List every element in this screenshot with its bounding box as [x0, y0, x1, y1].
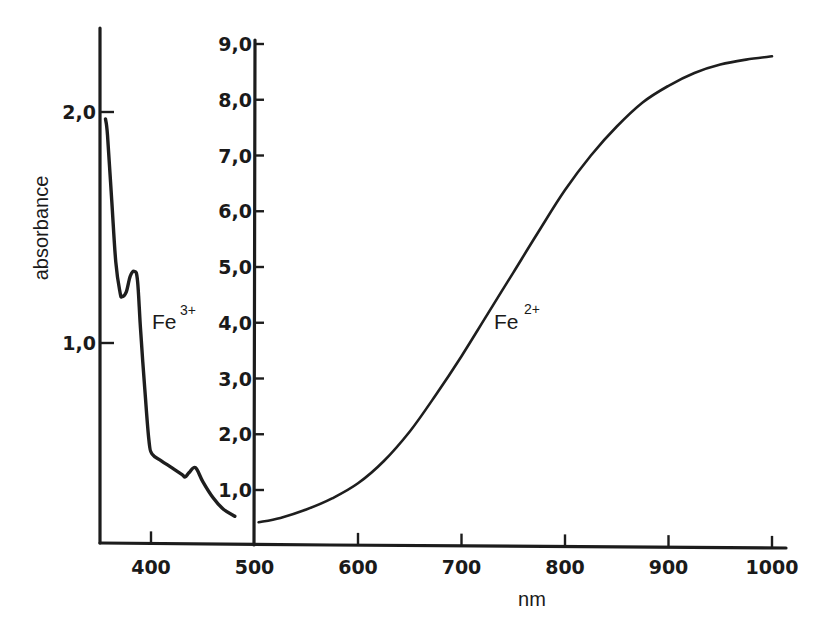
fe3-label-base: Fe: [152, 310, 177, 333]
absorbance-spectrum-chart: 4005006007008009001000 1,02,0 1,02,03,04…: [0, 0, 830, 632]
fe2-label-superscript: 2+: [524, 301, 540, 317]
x-axis-label: nm: [518, 588, 546, 610]
x-tick-label-900: 900: [649, 556, 689, 578]
left-y-tick-label: 2,0: [62, 101, 96, 123]
y-axis-label: absorbance: [30, 176, 52, 281]
chart-canvas: 4005006007008009001000 1,02,0 1,02,03,04…: [0, 0, 830, 632]
fe2-absorbance-curve: [259, 56, 772, 522]
fe2-label-base: Fe: [494, 310, 519, 333]
right-y-tick-label: 1,0: [218, 479, 252, 501]
right-y-tick-label: 3,0: [218, 368, 252, 390]
right-y-tick-label: 4,0: [218, 312, 252, 334]
x-axis: [100, 543, 786, 548]
right-y-tick-label: 5,0: [218, 256, 252, 278]
left-y-tick-label: 1,0: [62, 332, 96, 354]
right-y-tick-label: 6,0: [218, 200, 252, 222]
right-y-tick-label: 8,0: [218, 89, 252, 111]
fe3-series-label: Fe 3+: [152, 302, 196, 333]
axes: [100, 28, 786, 548]
x-tick-label-400: 400: [131, 556, 171, 578]
x-tick-label-500: 500: [235, 556, 275, 578]
x-tick-label-800: 800: [545, 556, 585, 578]
x-tick-label-1000: 1000: [746, 556, 799, 578]
fe2-series-label: Fe 2+: [494, 301, 540, 333]
right-y-axis: [254, 40, 255, 545]
right-y-tick-label: 7,0: [218, 145, 252, 167]
x-tick-label-700: 700: [442, 556, 482, 578]
right-y-tick-label: 9,0: [218, 33, 252, 55]
right-y-tick-label: 2,0: [218, 423, 252, 445]
right-y-axis-ticks: 1,02,03,04,05,06,07,08,09,0: [218, 33, 264, 501]
fe3-label-superscript: 3+: [180, 302, 196, 318]
x-tick-label-600: 600: [338, 556, 378, 578]
x-axis-tick-labels: 4005006007008009001000: [131, 556, 798, 578]
